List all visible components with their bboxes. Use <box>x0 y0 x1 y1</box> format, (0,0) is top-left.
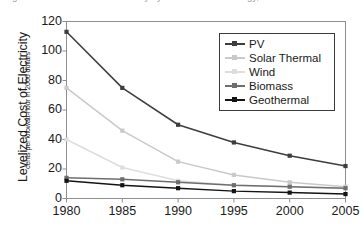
series-wind <box>64 137 347 190</box>
legend-label: PV <box>249 38 264 51</box>
legend-marker-icon <box>224 52 246 64</box>
legend-item-wind[interactable]: Wind <box>224 65 330 79</box>
legend-marker-icon <box>224 38 246 50</box>
legend-marker-icon <box>224 94 246 106</box>
legend-label: Geothermal <box>249 94 309 107</box>
legend-item-pv[interactable]: PV <box>224 37 330 51</box>
legend-item-biomass[interactable]: Biomass <box>224 79 330 93</box>
legend-item-geothermal[interactable]: Geothermal <box>224 93 330 107</box>
chart-figure: Figure: Levelized cost of electricity by… <box>0 0 364 231</box>
legend-label: Wind <box>249 66 275 79</box>
legend-marker-icon <box>224 66 246 78</box>
legend-label: Solar Thermal <box>249 52 321 65</box>
legend-item-solar-thermal[interactable]: Solar Thermal <box>224 51 330 65</box>
legend: PVSolar ThermalWindBiomassGeothermal <box>219 33 335 111</box>
legend-marker-icon <box>224 80 246 92</box>
legend-label: Biomass <box>249 80 293 93</box>
